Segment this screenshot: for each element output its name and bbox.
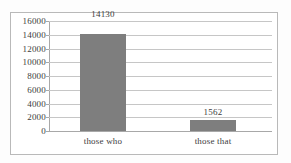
y-tick-label-10000: 10000 — [23, 58, 47, 67]
bar-value-those-that: 1562 — [190, 108, 236, 117]
y-axis-tick-labels: 16000 14000 12000 10000 8000 6000 4000 2… — [10, 21, 46, 131]
bar-those-that — [190, 120, 236, 131]
x-axis-category-labels: those who those that — [49, 136, 272, 150]
y-tick-label-16000: 16000 — [23, 17, 47, 26]
y-tick-label-12000: 12000 — [23, 45, 47, 54]
y-tick-label-4000: 4000 — [27, 100, 46, 109]
y-tick-label-14000: 14000 — [23, 31, 47, 40]
bar-those-who — [80, 34, 126, 131]
bar-chart-figure: 16000 14000 12000 10000 8000 6000 4000 2… — [0, 0, 291, 163]
y-tick-label-8000: 8000 — [27, 72, 46, 81]
y-tick-label-6000: 6000 — [27, 86, 46, 95]
plot-area: 14130 1562 — [49, 21, 272, 131]
category-label-those-that: those that — [175, 136, 251, 146]
category-label-those-who: those who — [65, 136, 141, 146]
y-tick-label-2000: 2000 — [27, 113, 46, 122]
gridline-baseline-0 — [49, 131, 272, 132]
bar-value-those-who: 14130 — [80, 10, 126, 19]
gridline-16000 — [49, 21, 272, 22]
